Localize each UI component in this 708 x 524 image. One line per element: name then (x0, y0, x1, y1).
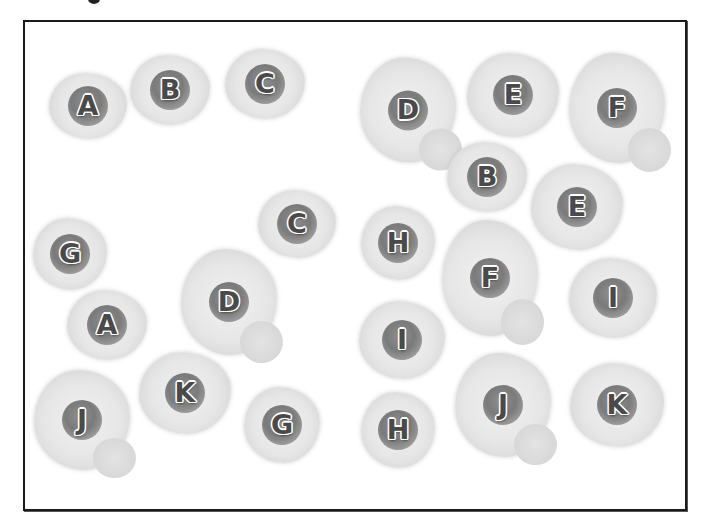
egg-card-i[interactable]: I (569, 258, 657, 338)
egg-card-c[interactable]: C (258, 190, 336, 258)
egg-card-e[interactable]: E (467, 53, 559, 137)
egg-card-f[interactable]: F (442, 220, 538, 336)
egg-card-f[interactable]: F (569, 53, 665, 163)
egg-card-k[interactable]: K (570, 363, 664, 447)
egg-card-g[interactable]: G (244, 387, 320, 463)
egg-card-d[interactable]: D (181, 249, 277, 355)
egg-card-g[interactable]: G (33, 218, 107, 290)
egg-card-h[interactable]: H (361, 392, 435, 468)
egg-card-j[interactable]: J (34, 370, 130, 470)
egg-letter-label: I (397, 326, 407, 353)
egg-letter-label: B (477, 163, 498, 190)
egg-letter-label: D (397, 96, 419, 123)
egg-card-k[interactable]: K (139, 352, 231, 434)
egg-letter-label: F (481, 264, 499, 291)
egg-card-a[interactable]: A (67, 290, 147, 360)
egg-letter-label: F (608, 94, 626, 121)
egg-card-j[interactable]: J (455, 353, 551, 457)
egg-letter-label: H (387, 229, 410, 256)
egg-letter-label: B (160, 76, 181, 103)
egg-letter-label: E (568, 193, 586, 220)
egg-card-i[interactable]: I (359, 301, 445, 379)
egg-card-e[interactable]: E (531, 164, 623, 250)
egg-letter-label: I (608, 284, 618, 311)
cropped-title-glyph (88, 0, 100, 4)
egg-card-c[interactable]: C (225, 49, 305, 119)
egg-letter-label: G (271, 411, 293, 438)
egg-letter-label: K (607, 391, 628, 418)
egg-card-b[interactable]: B (447, 142, 527, 212)
egg-letter-label: H (387, 416, 410, 443)
egg-card-a[interactable]: A (49, 73, 127, 139)
egg-card-d[interactable]: D (360, 58, 456, 163)
egg-card-h[interactable]: H (361, 206, 435, 280)
egg-letter-label: G (59, 240, 81, 267)
egg-letter-label: K (175, 379, 196, 406)
egg-letter-label: J (77, 406, 87, 433)
egg-letter-label: J (498, 391, 508, 418)
egg-letter-label: E (504, 81, 522, 108)
egg-letter-label: C (287, 210, 307, 237)
egg-letter-label: D (218, 288, 240, 315)
egg-letter-label: A (78, 92, 99, 119)
egg-letter-label: C (255, 70, 275, 97)
egg-letter-label: A (97, 311, 118, 338)
egg-card-b[interactable]: B (130, 55, 210, 125)
